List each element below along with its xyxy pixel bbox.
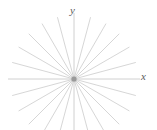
ray-75 xyxy=(74,17,91,79)
axes-group xyxy=(8,13,140,130)
ray-15 xyxy=(74,62,136,79)
y-axis-label: y xyxy=(70,5,75,16)
x-axis-label: x xyxy=(141,71,146,82)
ray-105 xyxy=(57,17,74,79)
ray-165 xyxy=(12,62,74,79)
origin-dot xyxy=(71,76,76,81)
ray-255 xyxy=(57,79,74,130)
ray-195 xyxy=(12,79,74,96)
ray-diagram-canvas xyxy=(0,0,157,130)
polar-star-figure: y x xyxy=(0,0,157,130)
ray-345 xyxy=(74,79,136,96)
ray-285 xyxy=(74,79,91,130)
